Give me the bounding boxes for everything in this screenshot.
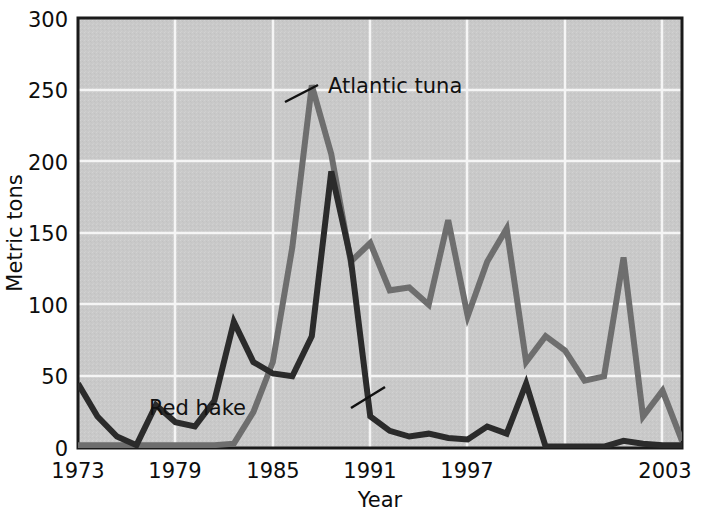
y-tick-300: 300 [28, 8, 68, 32]
x-tick-1973: 1973 [51, 459, 104, 483]
y-tick-50: 50 [41, 365, 68, 389]
y-axis-tick-labels: 300 250 200 150 100 50 0 [28, 8, 68, 461]
y-tick-150: 150 [28, 222, 68, 246]
y-tick-0: 0 [55, 437, 68, 461]
y-axis-title: Metric tons [3, 174, 27, 291]
line-chart: Atlantic tuna Red hake 300 250 200 150 1… [0, 0, 701, 514]
y-tick-100: 100 [28, 294, 68, 318]
annotation-red-hake: Red hake [149, 396, 246, 420]
x-tick-1997: 1997 [440, 459, 493, 483]
y-tick-200: 200 [28, 151, 68, 175]
annotation-atlantic-tuna: Atlantic tuna [328, 74, 462, 98]
y-tick-250: 250 [28, 79, 68, 103]
x-tick-1991: 1991 [343, 459, 396, 483]
x-tick-2003: 2003 [638, 459, 691, 483]
chart-figure: Atlantic tuna Red hake 300 250 200 150 1… [0, 0, 701, 514]
x-tick-1985: 1985 [246, 459, 299, 483]
x-axis-title: Year [357, 488, 403, 512]
x-tick-1979: 1979 [148, 459, 201, 483]
x-axis-tick-labels: 1973 1979 1985 1991 1997 2003 [51, 459, 691, 483]
